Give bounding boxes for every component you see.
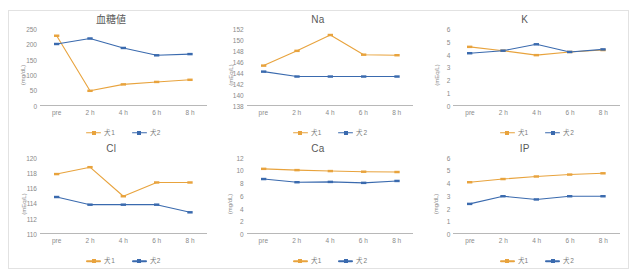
x-axis-tick-label: pre: [259, 109, 268, 116]
chart-plot-svg: [247, 158, 414, 235]
data-point-marker: [361, 75, 366, 77]
y-axis-tick-label: 152: [233, 26, 244, 33]
y-axis-tick-label: 6: [240, 192, 244, 199]
legend-item-犬2[interactable]: 犬2: [338, 129, 367, 137]
chart-panel-Ca: Ca(mg/dL)024681012pre2 h4 h6 h8 h犬1犬2: [215, 140, 422, 269]
data-point-marker: [121, 47, 126, 49]
legend-label: 犬2: [563, 129, 574, 137]
data-point-marker: [361, 181, 366, 183]
data-point-marker: [601, 48, 606, 50]
legend-item-犬2[interactable]: 犬2: [545, 257, 574, 265]
x-axis-tick-label: 4 h: [532, 237, 541, 244]
data-point-marker: [54, 172, 59, 174]
legend-swatch-icon: [132, 258, 147, 265]
data-point-marker: [327, 169, 332, 171]
data-point-marker: [87, 203, 92, 205]
data-point-marker: [534, 43, 539, 45]
series-line-犬1: [57, 36, 190, 91]
y-axis-tick-label: 5: [447, 38, 451, 45]
legend-label: 犬1: [311, 257, 322, 265]
y-axis-tick-label: 120: [26, 154, 37, 161]
data-point-marker: [467, 46, 472, 48]
chart-legend: 犬1犬2: [453, 257, 620, 265]
chart-legend: 犬1犬2: [453, 129, 620, 137]
x-axis-tick-label: 8 h: [599, 109, 608, 116]
y-axis-tick-label: 0: [240, 231, 244, 238]
x-axis-tick-label: 6 h: [152, 237, 161, 244]
x-axis-tick-label: 6 h: [152, 109, 161, 116]
x-axis-tick-label: 6 h: [565, 109, 574, 116]
data-point-marker: [467, 52, 472, 54]
y-axis-tick-label: 12: [236, 154, 243, 161]
data-point-marker: [501, 195, 506, 197]
x-axis-tick-label: pre: [52, 109, 61, 116]
data-point-marker: [534, 198, 539, 200]
legend-item-犬1[interactable]: 犬1: [86, 129, 115, 137]
figure-frame-right: [628, 10, 629, 269]
data-point-marker: [394, 75, 399, 77]
data-point-marker: [601, 195, 606, 197]
data-point-marker: [534, 175, 539, 177]
x-axis-tick-label: 8 h: [185, 237, 194, 244]
data-point-marker: [261, 70, 266, 72]
y-axis-tick-label: 116: [27, 185, 37, 192]
y-axis-tick-label: 110: [27, 231, 37, 238]
series-line-犬1: [470, 173, 603, 182]
chart-title: Ca: [215, 143, 422, 155]
y-axis-tick-label: 10: [236, 167, 243, 174]
y-axis-label: (mEq/L): [434, 65, 440, 86]
legend-swatch-icon: [86, 129, 101, 136]
data-point-marker: [501, 49, 506, 51]
y-axis-tick-label: 150: [233, 36, 244, 43]
x-axis-tick-label: 4 h: [325, 237, 334, 244]
data-point-marker: [294, 168, 299, 170]
legend-item-犬2[interactable]: 犬2: [132, 257, 161, 265]
chart-panel-Cl: Cl(mEq/L)110112114116118120pre2 h4 h6 h8…: [8, 140, 215, 269]
data-point-marker: [261, 177, 266, 179]
legend-swatch-icon: [86, 258, 101, 265]
data-point-marker: [294, 181, 299, 183]
legend-item-犬1[interactable]: 犬1: [86, 257, 115, 265]
y-axis-tick-label: 0: [447, 102, 451, 109]
data-point-marker: [361, 170, 366, 172]
legend-item-犬1[interactable]: 犬1: [500, 257, 529, 265]
legend-label: 犬2: [150, 129, 161, 137]
plot-area: 024681012pre2 h4 h6 h8 h: [247, 158, 414, 235]
data-point-marker: [121, 195, 126, 197]
data-point-marker: [87, 37, 92, 39]
legend-item-犬2[interactable]: 犬2: [132, 129, 161, 137]
legend-item-犬2[interactable]: 犬2: [545, 129, 574, 137]
data-point-marker: [601, 172, 606, 174]
x-axis-tick-label: 6 h: [565, 237, 574, 244]
data-point-marker: [187, 211, 192, 213]
x-axis-tick-label: 6 h: [359, 109, 368, 116]
legend-label: 犬1: [104, 129, 115, 137]
data-point-marker: [87, 90, 92, 92]
legend-item-犬1[interactable]: 犬1: [293, 129, 322, 137]
legend-item-犬1[interactable]: 犬1: [500, 129, 529, 137]
y-axis-tick-label: 2: [240, 218, 244, 225]
chart-title: K: [421, 14, 628, 26]
x-axis-tick-label: 8 h: [185, 109, 194, 116]
chart-legend: 犬1犬2: [40, 257, 207, 265]
y-axis-tick-label: 200: [26, 41, 37, 48]
legend-swatch-icon: [132, 129, 147, 136]
data-point-marker: [154, 81, 159, 83]
x-axis-tick-label: 2 h: [292, 109, 301, 116]
data-point-marker: [534, 54, 539, 56]
data-point-marker: [87, 165, 92, 167]
data-point-marker: [294, 50, 299, 52]
legend-label: 犬2: [356, 129, 367, 137]
legend-swatch-icon: [545, 258, 560, 265]
x-axis-tick-label: 2 h: [499, 237, 508, 244]
x-axis-tick-label: 8 h: [392, 109, 401, 116]
legend-label: 犬1: [518, 257, 529, 265]
y-axis-tick-label: 3: [447, 192, 451, 199]
y-axis-label: (mg/dL): [434, 193, 440, 214]
chart-legend: 犬1犬2: [247, 257, 414, 265]
legend-item-犬1[interactable]: 犬1: [293, 257, 322, 265]
chart-title: Na: [215, 14, 422, 26]
x-axis-tick-label: 8 h: [392, 237, 401, 244]
data-point-marker: [567, 173, 572, 175]
legend-item-犬2[interactable]: 犬2: [338, 257, 367, 265]
